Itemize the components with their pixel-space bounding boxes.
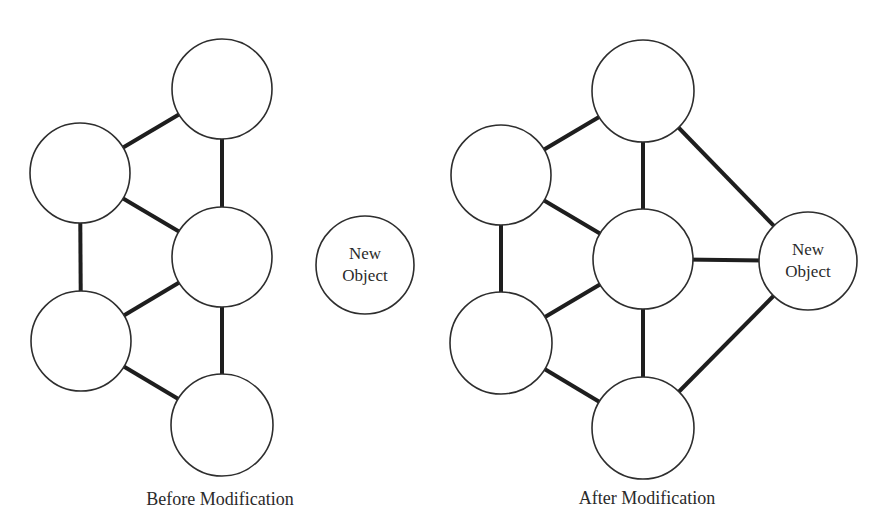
before-node-b5: [171, 374, 273, 476]
before-node-b2: [30, 123, 130, 223]
new-object-label-line1: New: [342, 243, 387, 265]
before-modification-caption: Before Modification: [146, 490, 293, 508]
after-new-object-label-line1: New: [785, 239, 830, 261]
after-node-a4: [450, 292, 552, 394]
network-diagram: [0, 0, 884, 523]
before-node-b1: [172, 39, 272, 139]
after-node-a2: [451, 125, 551, 225]
after-modification-caption: After Modification: [579, 489, 715, 507]
after-node-a5: [592, 377, 694, 479]
new-object-label-line2: Object: [342, 265, 387, 287]
before-nodes: [30, 39, 273, 476]
after-node-a1: [592, 40, 694, 142]
after-node-a3: [593, 209, 693, 309]
after-new-object-label: New Object: [785, 239, 830, 283]
new-object-label: New Object: [342, 243, 387, 287]
before-node-b3: [172, 207, 272, 307]
after-new-object-label-line2: Object: [785, 261, 830, 283]
before-node-b4: [31, 291, 131, 391]
